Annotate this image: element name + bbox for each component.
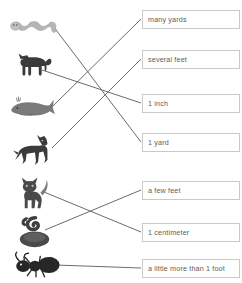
whale-icon (6, 90, 58, 124)
connection-line-worm-to-one-yard[interactable] (50, 22, 141, 142)
label-text: a little more than 1 foot (148, 264, 225, 273)
label-text: 1 centimeter (148, 228, 189, 237)
worm-icon (8, 8, 60, 42)
connection-line-ant-to-more-than-foot[interactable] (55, 265, 141, 268)
horse-icon (10, 128, 62, 172)
animal-snake-icon[interactable] (14, 212, 58, 250)
label-text: many yards (148, 15, 187, 24)
animal-cat-icon[interactable] (14, 172, 58, 214)
animal-horse-icon[interactable] (10, 128, 62, 172)
connection-line-whale-to-many-yards[interactable] (52, 19, 141, 107)
connection-line-horse-to-several-feet[interactable] (52, 59, 141, 148)
snake-icon (14, 212, 58, 250)
matching-worksheet: many yardsseveral feet1 inch1 yarda few … (0, 0, 242, 283)
label-box-one-inch[interactable]: 1 inch (142, 94, 240, 113)
cat-icon (14, 172, 58, 214)
animal-dog-icon[interactable] (10, 42, 58, 86)
dog-icon (10, 42, 58, 86)
label-box-a-few-feet[interactable]: a few feet (142, 181, 240, 200)
ant-icon (8, 250, 64, 280)
label-text: 1 inch (148, 99, 168, 108)
animal-whale-icon[interactable] (6, 90, 58, 124)
label-box-one-yard[interactable]: 1 yard (142, 133, 240, 152)
label-text: 1 yard (148, 138, 169, 147)
label-box-more-than-foot[interactable]: a little more than 1 foot (142, 259, 240, 278)
label-box-several-feet[interactable]: several feet (142, 50, 240, 69)
connection-line-snake-to-a-few-feet[interactable] (45, 190, 141, 230)
label-text: several feet (148, 55, 187, 64)
animal-ant-icon[interactable] (8, 250, 64, 280)
animal-worm-icon[interactable] (8, 8, 60, 42)
label-box-many-yards[interactable]: many yards (142, 10, 240, 29)
connection-line-cat-to-one-cm[interactable] (44, 192, 141, 232)
label-text: a few feet (148, 186, 181, 195)
label-box-one-cm[interactable]: 1 centimeter (142, 223, 240, 242)
